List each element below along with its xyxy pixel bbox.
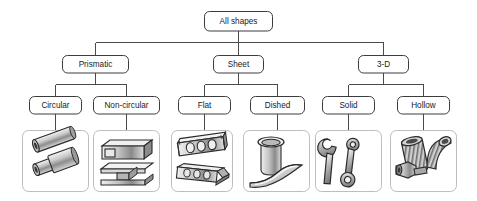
node-dished[interactable]: Dished — [251, 97, 305, 115]
diagram-canvas: All shapes Prismatic Sheet 3-D Circular … — [0, 0, 477, 201]
connector-lines — [56, 31, 424, 130]
node-hollow[interactable]: Hollow — [398, 97, 450, 115]
node-label-hollow: Hollow — [411, 101, 436, 110]
node-label-prismatic: Prismatic — [79, 60, 113, 69]
node-label-sheet: Sheet — [228, 60, 250, 69]
node-circular[interactable]: Circular — [30, 97, 82, 115]
node-prismatic[interactable]: Prismatic — [63, 56, 129, 74]
node-solid[interactable]: Solid — [323, 97, 375, 115]
node-flat[interactable]: Flat — [179, 97, 231, 115]
node-sheet[interactable]: Sheet — [214, 56, 264, 74]
node-three-d[interactable]: 3-D — [359, 56, 409, 74]
panel-flat[interactable] — [172, 131, 233, 192]
node-label-flat: Flat — [198, 101, 212, 110]
node-label-three-d: 3-D — [377, 60, 390, 69]
node-label-circular: Circular — [41, 101, 69, 110]
node-label-solid: Solid — [339, 101, 358, 110]
node-label-all-shapes: All shapes — [220, 17, 258, 26]
node-non-circular[interactable]: Non-circular — [94, 97, 160, 115]
panel-circular[interactable] — [23, 126, 89, 192]
panel-solid[interactable] — [309, 131, 381, 192]
shape-classification-diagram: All shapes Prismatic Sheet 3-D Circular … — [0, 0, 477, 201]
node-all-shapes[interactable]: All shapes — [205, 12, 273, 32]
node-label-dished: Dished — [265, 101, 291, 110]
panel-non-circular[interactable] — [94, 131, 160, 192]
panel-dished[interactable] — [244, 131, 310, 192]
panel-hollow[interactable] — [391, 131, 457, 192]
node-label-non-circular: Non-circular — [104, 101, 148, 110]
